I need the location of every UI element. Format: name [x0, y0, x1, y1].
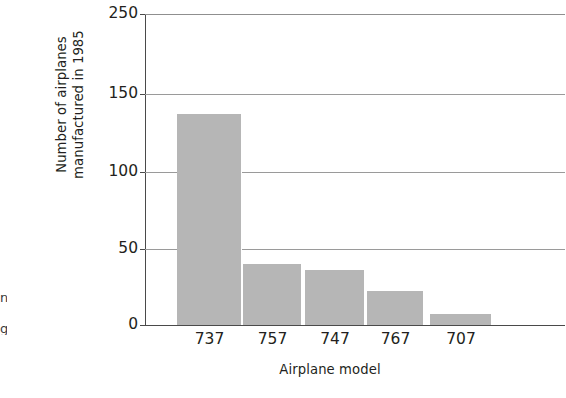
y-tick-mark — [140, 325, 145, 326]
y-axis-tick-label: 50 — [118, 241, 138, 257]
y-tick-mark — [140, 94, 145, 95]
bar-757 — [243, 264, 302, 325]
bar-767 — [367, 291, 424, 325]
y-axis-title: Number of airplanes manufactured in 1985 — [54, 0, 87, 235]
margin-text-fragment-top: n — [0, 291, 7, 304]
y-axis-tick-label: 0 — [128, 317, 138, 333]
plot-area: 050100150250 737757747767707 — [145, 14, 565, 326]
y-tick-mark — [140, 172, 145, 173]
y-tick-mark — [140, 14, 145, 15]
y-axis-title-line2: manufactured in 1985 — [70, 0, 87, 235]
x-axis-tick-label-747: 747 — [320, 332, 350, 348]
y-axis-tick-label: 250 — [108, 6, 138, 22]
y-axis-line — [145, 14, 146, 326]
y-tick-mark — [140, 249, 145, 250]
bar-737 — [177, 114, 242, 325]
bar-747 — [305, 270, 365, 325]
x-axis-tick-label-767: 767 — [381, 332, 411, 348]
x-axis-tick-label-737: 737 — [195, 332, 225, 348]
y-axis-tick-label: 100 — [108, 164, 138, 180]
x-axis-tick-label-707: 707 — [446, 332, 476, 348]
x-axis-title: Airplane model — [150, 362, 510, 377]
gridline-150 — [145, 94, 565, 95]
bar-chart-figure: n g Number of airplanes manufactured in … — [0, 0, 566, 398]
gridline-250 — [145, 14, 565, 15]
bar-707 — [430, 314, 492, 325]
y-axis-title-line1: Number of airplanes — [54, 0, 71, 235]
margin-text-fragment-bottom: g — [0, 322, 7, 335]
y-axis-tick-label: 150 — [108, 86, 138, 102]
x-axis-tick-label-757: 757 — [258, 332, 288, 348]
